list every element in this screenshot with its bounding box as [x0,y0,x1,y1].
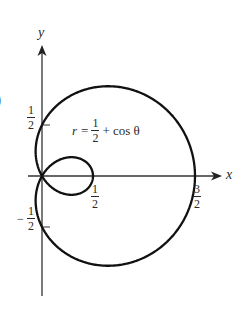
x-tick-label-half: 1 2 [91,183,99,210]
x-axis-label: x [226,168,232,182]
equation-fraction: 1 2 [91,117,99,144]
part-label-fragment: ) [0,86,1,112]
y-axis-label: y [38,26,44,40]
polar-graph-figure: ) y x 1 2 − 1 2 1 2 3 2 r = 1 2 + cos θ [0,0,244,312]
curve-equation: r = 1 2 + cos θ [72,117,140,144]
equation-rest: + cos θ [102,123,139,139]
y-tick-label-neg-half: 1 2 [27,205,35,232]
polar-graph-svg [0,0,244,312]
y-tick-label-neg-sign: − [17,212,24,227]
x-tick-label-three-half: 3 2 [193,183,201,210]
y-tick-label-half: 1 2 [27,104,35,131]
